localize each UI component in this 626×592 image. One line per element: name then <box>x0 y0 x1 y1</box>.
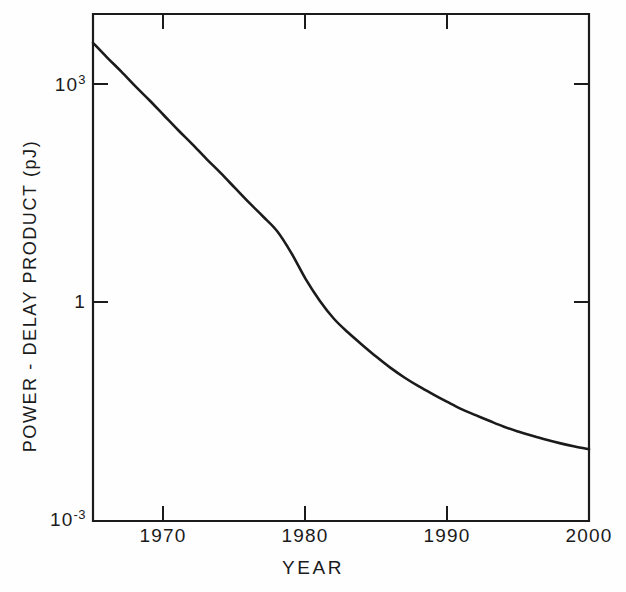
data-curve-power-delay-product <box>93 43 589 449</box>
plot-frame <box>93 14 589 521</box>
x-tick-label-1980: 1980 <box>281 525 328 547</box>
figure-canvas: 103 1 10-3 1970 1980 1990 2000 YEAR POWE… <box>0 0 626 592</box>
y-tick-label-1e3: 103 <box>55 72 86 96</box>
x-tick-label-2000: 2000 <box>565 525 612 547</box>
chart-plot-area <box>0 0 626 592</box>
y-axis-title: POWER - DELAY PRODUCT (pJ) <box>10 0 50 592</box>
x-tick-label-1990: 1990 <box>423 525 470 547</box>
y-tick-label-1e-3: 10-3 <box>50 507 86 531</box>
y-tick-label-1: 1 <box>74 291 86 313</box>
x-tick-label-1970: 1970 <box>139 525 186 547</box>
x-axis-title: YEAR <box>0 557 626 579</box>
